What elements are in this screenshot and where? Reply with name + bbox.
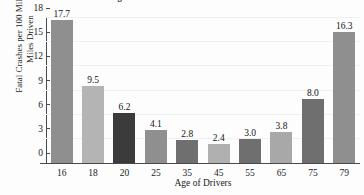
bar	[113, 113, 135, 163]
bar-value-label: 2.8	[181, 129, 193, 139]
y-axis-tick: 0	[38, 148, 46, 158]
bar	[208, 144, 230, 163]
bar-value-label: 2.4	[213, 133, 225, 143]
bar-value-label: 17.7	[53, 9, 70, 19]
x-axis-tick-label: 55	[245, 168, 255, 178]
bar-group: 8.075	[297, 18, 328, 163]
x-axis-tick-label: 18	[88, 168, 98, 178]
chart-figure: Age of Bad Drivers and Fatal Crashes Fat…	[0, 0, 364, 195]
x-axis-tick-label: 45	[214, 168, 224, 178]
bar-group: 16.379	[329, 18, 360, 163]
plot-area: 0369121518 17.7169.5186.2204.1252.8352.4…	[46, 18, 360, 163]
bar	[239, 139, 261, 163]
bar-value-label: 3.0	[244, 128, 256, 138]
bar	[82, 86, 104, 163]
y-axis-tick-mark	[46, 8, 50, 9]
y-axis-tick: 18	[34, 3, 47, 13]
bar-value-label: 16.3	[336, 21, 353, 31]
x-axis-tick-label: 75	[308, 168, 318, 178]
y-axis-tick-label: 9	[38, 76, 46, 86]
bar-value-label: 3.8	[276, 121, 288, 131]
bar-group: 2.835	[172, 18, 203, 163]
y-axis-tick-label: 15	[34, 27, 47, 37]
bar	[51, 20, 73, 163]
bar	[270, 132, 292, 163]
y-axis-tick-label: 6	[38, 100, 46, 110]
x-axis-tick-label: 16	[57, 168, 67, 178]
bar	[302, 99, 324, 163]
bar-group: 17.716	[46, 18, 77, 163]
y-axis-tick: 15	[34, 27, 47, 37]
y-axis-tick: 9	[38, 76, 46, 86]
y-axis-title-line-2: Miles Driven	[25, 0, 36, 93]
bar-group: 9.518	[77, 18, 108, 163]
y-axis-tick-label: 3	[38, 124, 46, 134]
y-axis-tick-label: 12	[34, 51, 47, 61]
bar-group: 4.125	[140, 18, 171, 163]
chart-title: Age of Bad Drivers and Fatal Crashes	[0, 0, 364, 2]
bar-value-label: 9.5	[87, 75, 99, 85]
y-axis-tick-label: 18	[34, 3, 47, 13]
bar	[333, 32, 355, 163]
y-axis-tick: 3	[38, 124, 46, 134]
bar-group: 3.055	[234, 18, 265, 163]
bar-value-label: 6.2	[119, 102, 131, 112]
bar-group: 3.865	[266, 18, 297, 163]
x-axis-tick-label: 65	[277, 168, 287, 178]
x-axis-title: Age of Drivers	[46, 178, 360, 188]
bar	[176, 140, 198, 163]
y-axis-tick: 6	[38, 100, 46, 110]
x-axis-tick-label: 79	[340, 168, 350, 178]
x-axis-tick-label: 25	[151, 168, 161, 178]
bar-group: 2.445	[203, 18, 234, 163]
bar-group: 6.220	[109, 18, 140, 163]
x-axis-tick-label: 35	[183, 168, 193, 178]
y-axis-tick: 12	[34, 51, 47, 61]
bar-value-label: 4.1	[150, 119, 162, 129]
x-axis-line	[40, 163, 360, 164]
bar-value-label: 8.0	[307, 88, 319, 98]
x-axis-tick-label: 20	[120, 168, 130, 178]
bar	[145, 130, 167, 163]
y-axis-title-line-1: Fatal Crashes per 100 Million	[14, 0, 25, 93]
y-axis-tick-label: 0	[38, 148, 46, 158]
